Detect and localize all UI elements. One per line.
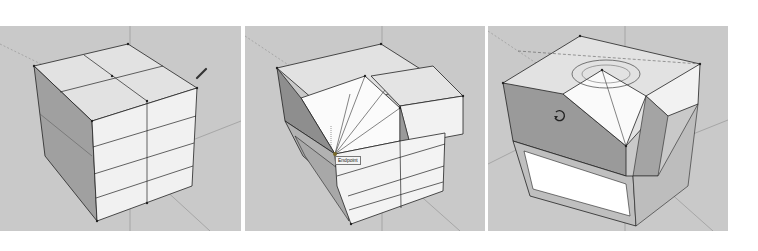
pencil-icon — [0, 26, 241, 231]
endpoint-inference-tooltip: Endpoint — [335, 156, 361, 165]
rotate-icon — [488, 26, 728, 231]
step-2-viewport[interactable]: Endpoint — [245, 26, 485, 231]
step-1-viewport[interactable] — [0, 26, 241, 231]
step-2-model — [245, 26, 485, 231]
step-3-viewport[interactable] — [488, 26, 728, 231]
